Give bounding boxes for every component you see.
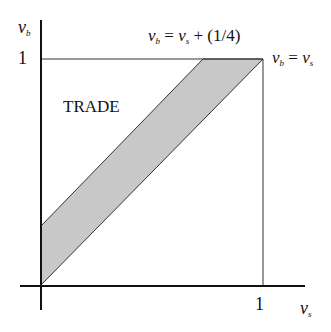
upper-line-equation: vb = vs + (1/4) [148,26,240,46]
x-axis-label: vs [300,298,312,319]
lower-line-equation: vb = vs [272,48,313,68]
trade-region-label: TRADE [63,97,120,117]
y-tick-1: 1 [18,48,27,69]
trade-band [41,59,263,285]
y-axis-label: vb [18,17,31,38]
x-tick-1: 1 [255,294,264,315]
